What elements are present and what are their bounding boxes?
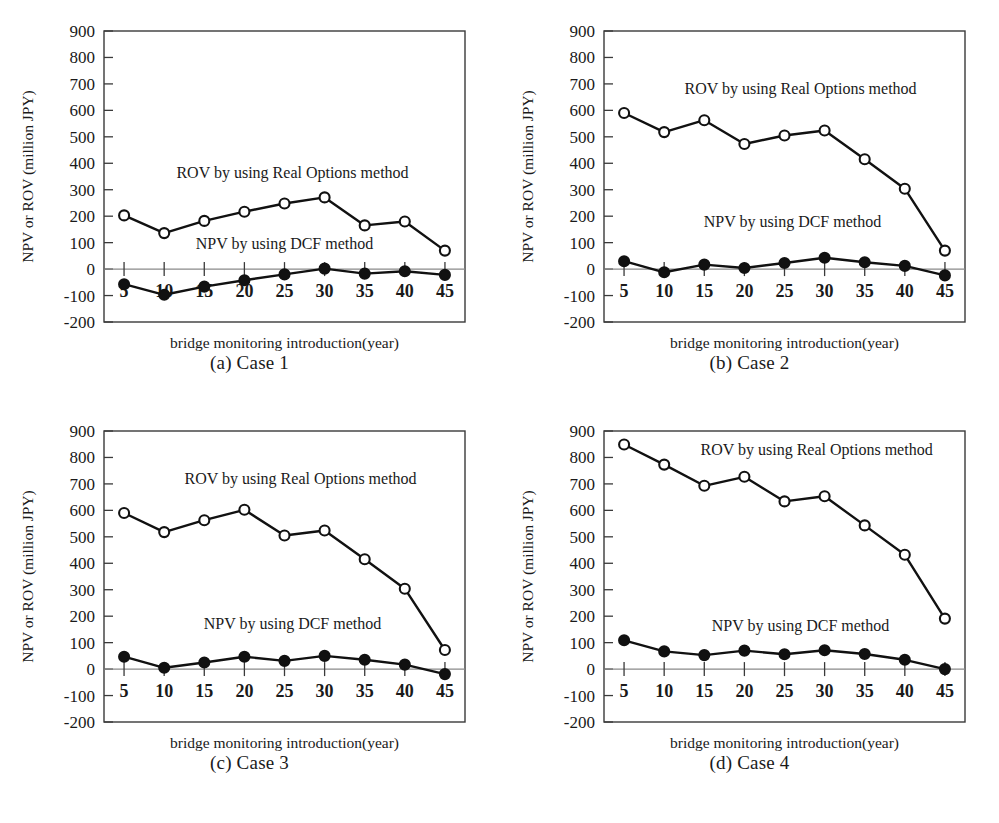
chart-panel-case-1: 9008007006005004003002001000-100-2005101… [0, 0, 499, 400]
npv-data-marker [119, 652, 129, 662]
y-tick-label: 900 [570, 422, 596, 441]
npv-data-marker [900, 261, 910, 271]
npv-data-marker [860, 649, 870, 659]
x-tick-label: 25 [276, 281, 294, 301]
npv-data-marker [619, 635, 629, 645]
y-tick-label: 400 [570, 554, 596, 573]
y-axis-title: NPV or ROV (million JPY) [519, 90, 537, 263]
x-tick-label: 10 [155, 681, 173, 701]
y-tick-label: 200 [70, 207, 96, 226]
npv-data-marker [699, 650, 709, 660]
x-tick-label: 45 [436, 281, 454, 301]
npv-series-label: NPV by using DCF method [196, 235, 374, 253]
y-tick-label: 700 [70, 475, 96, 494]
rov-data-marker [659, 127, 669, 137]
npv-data-marker [119, 279, 129, 289]
npv-data-marker [320, 651, 330, 661]
rov-data-marker [820, 126, 830, 136]
x-tick-label: 20 [235, 681, 253, 701]
y-tick-label: -200 [564, 313, 595, 332]
rov-data-marker [440, 246, 450, 256]
y-tick-label: -200 [64, 713, 95, 732]
npv-data-marker [699, 260, 709, 270]
chart-panel-case-3: 9008007006005004003002001000-100-2005101… [0, 400, 499, 800]
npv-series-label: NPV by using DCF method [704, 213, 882, 231]
rov-data-marker [159, 228, 169, 238]
x-tick-label: 45 [436, 681, 454, 701]
rov-data-marker [619, 108, 629, 118]
npv-data-marker [659, 267, 669, 277]
y-tick-label: -100 [64, 287, 95, 306]
rov-data-marker [940, 614, 950, 624]
y-tick-label: 900 [70, 422, 96, 441]
rov-data-marker [199, 216, 209, 226]
rov-data-marker [320, 192, 330, 202]
chart-svg: 9008007006005004003002001000-100-2005101… [500, 400, 999, 752]
rov-series-line [624, 445, 945, 619]
x-tick-label: 30 [316, 681, 334, 701]
y-tick-label: 300 [570, 581, 596, 600]
npv-data-marker [440, 669, 450, 679]
subfigure-caption-a: (a) Case 1 [0, 352, 499, 374]
y-tick-label: 600 [570, 101, 596, 120]
y-tick-label: -200 [64, 313, 95, 332]
y-tick-label: 300 [70, 581, 96, 600]
y-tick-label: 400 [70, 554, 96, 573]
x-tick-label: 40 [896, 681, 914, 701]
rov-data-marker [440, 645, 450, 655]
x-tick-label: 40 [896, 281, 914, 301]
rov-data-marker [619, 440, 629, 450]
plot-frame [604, 431, 965, 722]
rov-data-marker [400, 584, 410, 594]
npv-data-marker [159, 290, 169, 300]
rov-data-marker [360, 554, 370, 564]
npv-data-marker [780, 258, 790, 268]
x-tick-label: 25 [276, 681, 294, 701]
x-tick-label: 15 [695, 281, 713, 301]
x-tick-label: 10 [655, 681, 673, 701]
x-tick-label: 25 [776, 681, 794, 701]
chart-svg: 9008007006005004003002001000-100-2005101… [500, 0, 999, 352]
x-tick-label: 15 [195, 681, 213, 701]
npv-data-marker [280, 269, 290, 279]
subfigure-caption-c: (c) Case 3 [0, 752, 499, 774]
rov-data-marker [320, 526, 330, 536]
rov-data-marker [239, 505, 249, 515]
figure-sheet: 9008007006005004003002001000-100-2005101… [0, 0, 999, 823]
x-tick-label: 5 [620, 281, 629, 301]
y-tick-label: 800 [70, 448, 96, 467]
y-tick-label: 100 [570, 634, 596, 653]
x-tick-label: 25 [776, 281, 794, 301]
x-tick-label: 30 [816, 281, 834, 301]
npv-data-marker [440, 270, 450, 280]
npv-data-marker [199, 658, 209, 668]
npv-data-marker [820, 253, 830, 263]
y-tick-label: 300 [70, 181, 96, 200]
y-tick-label: 200 [570, 207, 596, 226]
y-tick-label: 500 [570, 528, 596, 547]
y-tick-label: 200 [570, 607, 596, 626]
npv-data-marker [739, 263, 749, 273]
npv-data-marker [940, 270, 950, 280]
rov-data-marker [820, 491, 830, 501]
y-tick-label: 300 [570, 181, 596, 200]
rov-data-marker [199, 515, 209, 525]
chart-svg: 9008007006005004003002001000-100-2005101… [0, 400, 499, 752]
rov-data-marker [699, 481, 709, 491]
y-tick-label: 0 [587, 660, 596, 679]
x-tick-label: 20 [735, 281, 753, 301]
rov-data-marker [119, 210, 129, 220]
rov-data-marker [900, 184, 910, 194]
y-tick-label: 600 [70, 501, 96, 520]
x-tick-label: 40 [396, 681, 414, 701]
y-tick-label: 700 [70, 75, 96, 94]
npv-data-marker [159, 663, 169, 673]
rov-series-label: ROV by using Real Options method [701, 441, 933, 459]
x-axis-title: bridge monitoring introduction(year) [670, 334, 899, 352]
y-tick-label: 800 [570, 448, 596, 467]
plot-case-1: 9008007006005004003002001000-100-2005101… [0, 0, 499, 352]
y-tick-label: 100 [70, 634, 96, 653]
page-footnote [105, 812, 725, 823]
y-tick-label: 900 [570, 22, 596, 41]
x-axis-title: bridge monitoring introduction(year) [170, 734, 399, 752]
